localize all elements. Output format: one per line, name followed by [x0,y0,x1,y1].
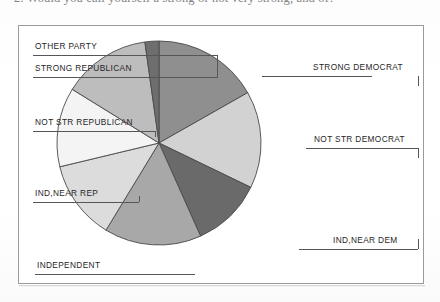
label-other-party: OTHER PARTY [35,41,97,51]
label-ind-near-rep: IND,NEAR REP [35,188,98,198]
label-independent: INDEPENDENT [37,260,100,270]
leader-line-ind-near-dem [299,249,418,250]
leader-line-other-party [33,55,218,56]
question-text-clipped: 2. Would you call yourself a strong or n… [14,0,434,5]
leader-stub-strong-democrat [418,76,419,86]
leader-line-not-str-republican [33,131,155,132]
label-not-str-republican: NOT STR REPUBLICAN [35,117,133,127]
label-strong-republican: STRONG REPUBLICAN [35,63,132,73]
leader-line-ind-near-rep [33,202,139,203]
label-ind-near-dem: IND,NEAR DEM [333,235,398,245]
label-strong-democrat: STRONG DEMOCRAT [313,62,403,72]
leader-line-strong-democrat [262,76,372,77]
frame-shadow [19,285,425,287]
leader-stub-ind-near-rep [139,196,140,202]
leader-line-not-str-democrat [306,148,418,149]
leader-stub-not-str-republican [155,131,156,137]
leader-stub-not-str-democrat [418,148,419,158]
scanned-page: 2. Would you call yourself a strong or n… [0,0,440,302]
leader-line-independent [35,274,195,275]
leader-stub-ind-near-dem [418,239,419,249]
leader-line-strong-republican [33,77,218,78]
label-not-str-democrat: NOT STR DEMOCRAT [314,134,405,144]
leader-drop-strong-republican [217,55,218,77]
